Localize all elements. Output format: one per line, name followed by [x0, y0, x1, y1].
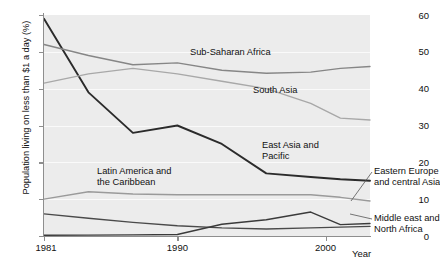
y-tick-mark: [39, 236, 43, 237]
series-label-south-asia: South Asia: [253, 85, 297, 96]
x-tick-label: 2000: [315, 243, 336, 253]
y-tick-mark: [39, 199, 43, 200]
y-tick-label: 60: [395, 11, 429, 21]
y-axis-title: Population living on less than $1 a day …: [22, 13, 31, 203]
y-tick-label: 50: [395, 47, 429, 57]
series-label-east-asia-pacific-line2: Pacific: [262, 151, 289, 161]
y-tick-mark: [39, 15, 43, 16]
y-tick-mark: [39, 89, 43, 90]
x-tick-mark: [326, 237, 327, 241]
series-label-middle-east-line2: North Africa: [374, 224, 423, 234]
series-label-middle-east-line1: Middle east and: [374, 213, 440, 223]
series-label-middle-east: Middle east and North Africa: [374, 213, 440, 235]
x-axis-title: Year: [352, 249, 371, 259]
series-label-east-asia-pacific: East Asia and Pacific: [262, 140, 319, 162]
y-tick-label: 40: [395, 84, 429, 94]
series-label-eastern-europe: Eastern Europe and central Asia: [374, 166, 440, 188]
series-label-eastern-europe-line1: Eastern Europe: [374, 166, 439, 176]
series-label-latin-america-line2: the Caribbean: [97, 177, 155, 187]
x-axis-line: [43, 236, 371, 237]
leader-line-middle-east: [350, 214, 372, 219]
series-label-sub-saharan-africa: Sub-Saharan Africa: [190, 47, 271, 58]
x-tick-label: 1990: [167, 243, 188, 253]
series-label-east-asia-pacific-line1: East Asia and: [262, 140, 319, 150]
series-label-eastern-europe-line2: and central Asia: [374, 177, 440, 187]
x-tick-label: 1981: [35, 243, 56, 253]
x-tick-mark: [44, 237, 45, 241]
x-tick-mark: [177, 237, 178, 241]
y-axis-line: [43, 13, 44, 237]
series-label-latin-america: Latin America and the Caribbean: [97, 166, 171, 188]
y-tick-mark: [39, 52, 43, 53]
leader-line-eastern-europe: [351, 172, 372, 201]
series-label-latin-america-line1: Latin America and: [97, 166, 171, 176]
y-tick-label: 10: [395, 195, 429, 205]
y-tick-mark: [39, 126, 43, 127]
y-tick-label: 30: [395, 121, 429, 131]
y-tick-mark: [39, 162, 43, 163]
